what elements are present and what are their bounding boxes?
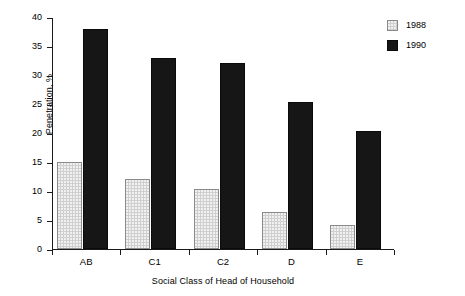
bar-D-1990: [288, 102, 313, 249]
x-axis-category-C2: C2: [188, 256, 258, 267]
x-axis-tick: [189, 250, 190, 255]
y-axis-tick: [47, 105, 52, 106]
x-axis-tick: [52, 250, 53, 255]
y-axis-tick: [47, 76, 52, 77]
y-axis-tick: [47, 192, 52, 193]
y-axis-tick-label: 15: [2, 158, 42, 167]
x-axis-title: Social Class of Head of Household: [52, 276, 394, 286]
y-axis-tick-label: 25: [2, 100, 42, 109]
y-axis-tick-label: 10: [2, 187, 42, 196]
bar-C1-1990: [151, 58, 176, 249]
bar-C1-1988: [125, 179, 150, 249]
y-axis-tick-label: 30: [2, 71, 42, 80]
bar-D-1988: [262, 212, 287, 249]
bar-C2-1990: [220, 63, 245, 249]
x-axis-tick: [394, 250, 395, 255]
legend-swatch-1990: [387, 40, 398, 51]
y-axis-tick: [47, 163, 52, 164]
x-axis-category-D: D: [256, 256, 326, 267]
x-axis-tick: [120, 250, 121, 255]
x-axis-tick: [257, 250, 258, 255]
bar-E-1990: [356, 131, 381, 249]
legend-label-1990: 1990: [406, 40, 426, 51]
bar-E-1988: [330, 225, 355, 249]
bar-AB-1988: [57, 162, 82, 249]
y-axis-tick-label: 35: [2, 42, 42, 51]
x-axis-category-E: E: [325, 256, 395, 267]
x-axis-line: [52, 249, 394, 250]
y-axis-tick: [47, 221, 52, 222]
y-axis-tick-label: 5: [2, 216, 42, 225]
bar-AB-1990: [83, 29, 108, 249]
legend-item-1988: 1988: [387, 17, 463, 34]
x-axis-category-C1: C1: [120, 256, 190, 267]
legend-swatch-1988: [387, 20, 398, 31]
y-axis-tick-label: 0: [2, 245, 42, 254]
y-axis-tick-label: 20: [2, 129, 42, 138]
bar-chart: Penetration, % 0510152025303540 ABC1C2DE…: [0, 0, 465, 296]
y-axis-tick: [47, 18, 52, 19]
y-axis-tick-label: 40: [2, 13, 42, 22]
legend-label-1988: 1988: [406, 20, 426, 31]
y-axis-tick: [47, 134, 52, 135]
y-axis-tick: [47, 47, 52, 48]
x-axis-category-AB: AB: [51, 256, 121, 267]
plot-area: 0510152025303540: [52, 18, 394, 250]
legend: 19881990: [387, 17, 463, 57]
legend-item-1990: 1990: [387, 37, 463, 54]
y-axis-line: [52, 18, 53, 250]
x-axis-tick: [326, 250, 327, 255]
bar-C2-1988: [194, 189, 219, 249]
